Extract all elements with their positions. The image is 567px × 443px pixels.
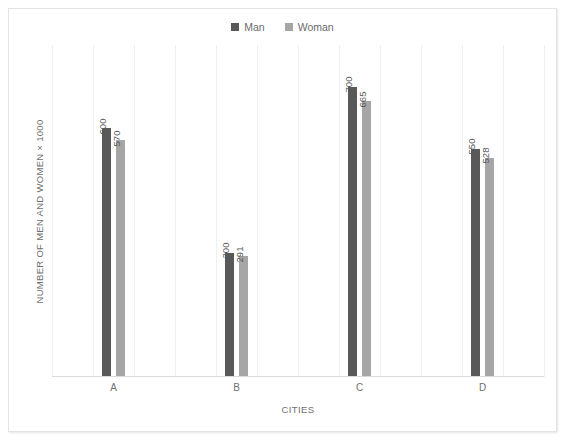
bar-value-label: 550 bbox=[466, 139, 476, 155]
legend-item-woman[interactable]: Woman bbox=[285, 22, 334, 33]
bar-value-label: 528 bbox=[480, 148, 490, 164]
x-tick-label: A bbox=[52, 381, 175, 395]
legend-item-man[interactable]: Man bbox=[231, 22, 264, 33]
bar-woman-c[interactable]: 665 bbox=[362, 45, 371, 377]
y-axis-title-text: NUMBER OF MEN AND WOMEN × 1000 bbox=[34, 119, 45, 303]
bar-group: 700665 bbox=[298, 45, 421, 377]
bar-rect[interactable] bbox=[116, 140, 125, 377]
x-tick-label: C bbox=[298, 381, 421, 395]
bar-man-d[interactable]: 550 bbox=[471, 45, 480, 377]
legend-swatch-man-icon bbox=[231, 23, 239, 31]
x-tick-label: D bbox=[421, 381, 544, 395]
bar-woman-b[interactable]: 291 bbox=[239, 45, 248, 377]
bar-value-label: 291 bbox=[234, 246, 244, 262]
bar-rect[interactable] bbox=[239, 256, 248, 377]
y-axis-title: NUMBER OF MEN AND WOMEN × 1000 bbox=[31, 45, 47, 377]
plot-area: 600570300291700665550528 bbox=[52, 45, 544, 377]
bar-rect[interactable] bbox=[348, 87, 357, 378]
bar-rect[interactable] bbox=[471, 149, 480, 377]
x-axis-tick-labels: ABCD bbox=[52, 381, 544, 395]
bar-rect[interactable] bbox=[485, 158, 494, 377]
x-axis-title: CITIES bbox=[52, 404, 544, 415]
bar-woman-d[interactable]: 528 bbox=[485, 45, 494, 377]
legend-label-woman: Woman bbox=[298, 22, 334, 33]
gridline bbox=[544, 45, 545, 377]
legend-label-man: Man bbox=[244, 22, 264, 33]
bar-man-a[interactable]: 600 bbox=[102, 45, 111, 377]
legend-swatch-woman-icon bbox=[285, 23, 293, 31]
bar-woman-a[interactable]: 570 bbox=[116, 45, 125, 377]
x-tick-label: B bbox=[175, 381, 298, 395]
bar-value-label: 300 bbox=[220, 243, 230, 259]
bar-rect[interactable] bbox=[362, 101, 371, 377]
bar-man-b[interactable]: 300 bbox=[225, 45, 234, 377]
bar-rect[interactable] bbox=[102, 128, 111, 377]
bar-value-label: 665 bbox=[357, 91, 367, 107]
x-axis-line bbox=[52, 376, 544, 377]
bar-group: 300291 bbox=[175, 45, 298, 377]
bar-groups: 600570300291700665550528 bbox=[52, 45, 544, 377]
bar-group: 600570 bbox=[52, 45, 175, 377]
bar-value-label: 600 bbox=[97, 118, 107, 134]
chart-container: Man Woman NUMBER OF MEN AND WOMEN × 1000… bbox=[8, 8, 557, 432]
bar-group: 550528 bbox=[421, 45, 544, 377]
bar-value-label: 570 bbox=[111, 131, 121, 147]
bar-rect[interactable] bbox=[225, 253, 234, 378]
bar-value-label: 700 bbox=[343, 77, 353, 93]
chart-legend: Man Woman bbox=[9, 22, 556, 33]
